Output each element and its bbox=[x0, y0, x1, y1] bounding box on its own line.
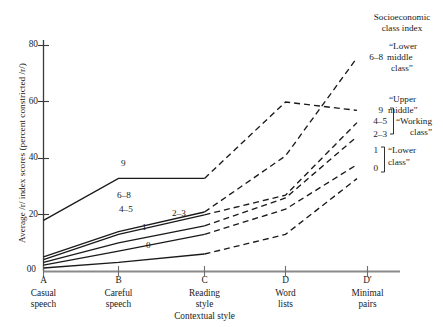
series-1-solid bbox=[44, 234, 205, 265]
series-9 bbox=[44, 102, 358, 220]
x-sublabel-reading-style-1: Reading bbox=[165, 288, 245, 299]
series-4-5-dashed bbox=[205, 123, 358, 215]
inline-label-2-3: 2–3 bbox=[172, 208, 186, 218]
inline-label-0: 0 bbox=[146, 240, 151, 250]
legend-code-4-5: 4–5 bbox=[361, 116, 387, 126]
legend-code-1: 1 bbox=[352, 145, 378, 155]
x-sublabel-careful-speech-2: speech bbox=[79, 299, 159, 310]
legend-name-lower-class-1: “Lower bbox=[388, 145, 416, 156]
x-sublabel-minimal-pairs-2: pairs bbox=[328, 299, 408, 310]
inline-label-1: 1 bbox=[142, 222, 147, 232]
x-sublabel-casual-speech-1: Casual bbox=[4, 288, 84, 299]
x-sublabel-casual-speech-2: speech bbox=[4, 299, 84, 310]
inline-label-4-5: 4–5 bbox=[119, 204, 133, 214]
legend-name-lower-class-2: class” bbox=[388, 157, 410, 168]
x-sublabel-word-lists-1: Word bbox=[246, 288, 326, 299]
x-tick-label-a: A bbox=[9, 275, 79, 285]
inline-label-9: 9 bbox=[121, 158, 126, 168]
x-tick-label-b: B bbox=[84, 275, 154, 285]
bracket-lower-class bbox=[381, 147, 385, 172]
legend-title-line-1: Socioeconomic bbox=[352, 12, 443, 23]
legend-name-lower-middle-3: class” bbox=[391, 63, 413, 74]
x-sublabel-careful-speech-1: Careful bbox=[79, 288, 159, 299]
legend-code-2-3: 2–3 bbox=[361, 129, 387, 139]
x-tick-label-dprime: D′ bbox=[333, 275, 403, 285]
x-sublabel-word-lists-2: lists bbox=[246, 299, 326, 310]
legend-code-9: 9 bbox=[357, 105, 383, 115]
series-group bbox=[44, 58, 358, 268]
series-4-5 bbox=[44, 123, 358, 260]
inline-label-6-8: 6–8 bbox=[117, 190, 131, 200]
x-sublabel-reading-style-2: style bbox=[165, 299, 245, 310]
legend-name-working-class-1: “Working bbox=[396, 116, 432, 127]
series-0 bbox=[44, 179, 358, 268]
x-sublabel-minimal-pairs-1: Minimal bbox=[328, 288, 408, 299]
legend-name-upper-middle-2: middle” bbox=[388, 105, 418, 116]
figure-r-index-by-contextual-style: Average /r/ index scores (percent constr… bbox=[0, 0, 443, 327]
legend-name-lower-middle-2: middle bbox=[387, 52, 413, 63]
legend-code-0: 0 bbox=[352, 163, 378, 173]
series-4-5-solid bbox=[44, 215, 205, 260]
series-6-8-dashed bbox=[205, 58, 358, 212]
x-tick-label-c: C bbox=[170, 275, 240, 285]
legend-name-upper-middle-1: “Upper bbox=[389, 94, 416, 105]
legend-name-lower-middle-1: “Lower bbox=[389, 41, 417, 52]
series-0-dashed bbox=[205, 179, 358, 254]
legend-code-6-8: 6–8 bbox=[357, 52, 383, 62]
series-2-3-dashed bbox=[205, 137, 358, 226]
x-tick-label-d: D bbox=[251, 275, 321, 285]
legend-title-line-2: class index bbox=[352, 23, 443, 34]
legend-name-working-class-2: class” bbox=[398, 127, 443, 138]
series-9-dashed bbox=[205, 102, 358, 178]
x-axis-title: Contextual style bbox=[135, 311, 275, 321]
